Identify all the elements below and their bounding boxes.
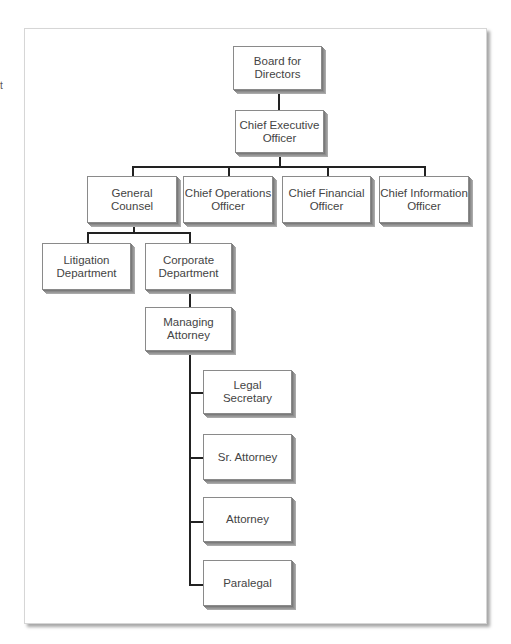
node-label: Attorney xyxy=(226,513,269,526)
node-label: Officer xyxy=(380,200,468,213)
node-label: Legal xyxy=(223,379,272,392)
node-label: Managing xyxy=(163,316,214,329)
connector-dept-bar xyxy=(87,232,190,234)
node-label: Chief Operations xyxy=(185,187,271,200)
node-label: Counsel xyxy=(111,200,153,213)
connector-to-cfo xyxy=(327,166,329,176)
connector-staff-spine xyxy=(189,351,191,585)
node-label: Chief Information xyxy=(380,187,468,200)
connector-corporate-managing xyxy=(189,290,191,307)
node-paralegal: Paralegal xyxy=(203,560,292,606)
node-label: Sr. Attorney xyxy=(218,451,277,464)
node-label: Chief Executive xyxy=(240,119,320,132)
connector-to-sr-attorney xyxy=(189,457,203,459)
node-label: Secretary xyxy=(223,392,272,405)
connector-to-coo xyxy=(228,166,230,176)
node-litigation-department: LitigationDepartment xyxy=(42,243,131,290)
node-label: Directors xyxy=(254,68,301,81)
node-label: Department xyxy=(56,267,116,280)
connector-ceo-down xyxy=(279,153,281,167)
node-label: Department xyxy=(158,267,218,280)
node-corporate-department: CorporateDepartment xyxy=(145,243,232,290)
node-label: Officer xyxy=(185,200,271,213)
node-legal-secretary: LegalSecretary xyxy=(203,370,292,414)
clipped-edge-text: t xyxy=(0,80,3,91)
connector-to-attorney xyxy=(189,521,203,523)
connector-exec-bar xyxy=(132,166,425,168)
connector-board-ceo xyxy=(278,90,280,110)
node-chief-financial-officer: Chief FinancialOfficer xyxy=(282,176,371,223)
connector-to-corporate xyxy=(189,232,191,243)
node-sr-attorney: Sr. Attorney xyxy=(203,434,292,480)
connector-to-paralegal xyxy=(189,584,203,586)
node-label: Chief Financial xyxy=(288,187,364,200)
node-board-for-directors: Board forDirectors xyxy=(233,46,322,90)
connector-to-litigation xyxy=(87,232,89,243)
node-chief-executive-officer: Chief ExecutiveOfficer xyxy=(235,110,324,153)
node-chief-operations-officer: Chief OperationsOfficer xyxy=(183,176,273,223)
node-attorney: Attorney xyxy=(203,497,292,542)
connector-to-gc xyxy=(132,166,134,176)
node-label: Paralegal xyxy=(223,577,272,590)
node-general-counsel: GeneralCounsel xyxy=(87,176,177,223)
node-managing-attorney: ManagingAttorney xyxy=(145,307,232,351)
node-label: Board for xyxy=(254,55,301,68)
connector-to-cio xyxy=(424,166,426,176)
node-label: Attorney xyxy=(163,329,214,342)
node-chief-information-officer: Chief InformationOfficer xyxy=(379,176,469,223)
node-label: General xyxy=(111,187,153,200)
node-label: Litigation xyxy=(56,254,116,267)
node-label: Officer xyxy=(288,200,364,213)
node-label: Corporate xyxy=(158,254,218,267)
node-label: Officer xyxy=(240,132,320,145)
connector-to-legal-secretary xyxy=(189,392,203,394)
